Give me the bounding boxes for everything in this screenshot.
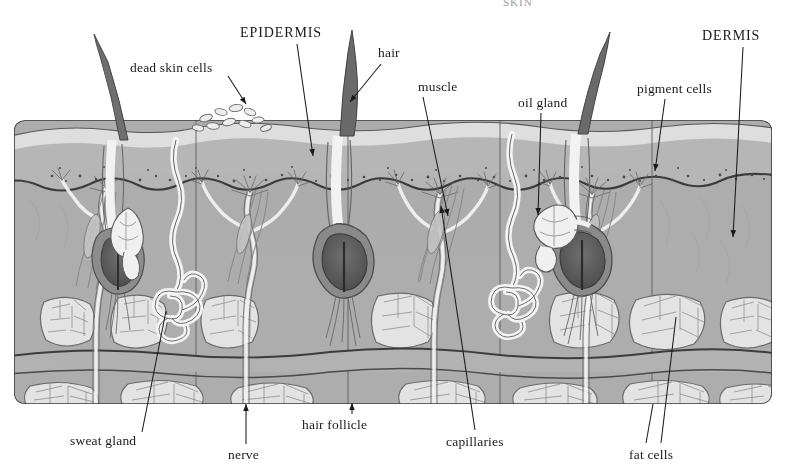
- label-capillaries: capillaries: [446, 434, 504, 450]
- hair-shaft-2: [340, 30, 358, 136]
- skin-cross-section-illustration: [0, 0, 789, 475]
- clipped-top-caption: SKIN: [503, 0, 533, 8]
- label-epidermis: EPIDERMIS: [240, 25, 322, 41]
- label-oil-gland: oil gland: [518, 95, 567, 111]
- label-dermis: DERMIS: [702, 28, 760, 44]
- label-hair-follicle: hair follicle: [302, 417, 367, 433]
- label-dead-skin-cells: dead skin cells: [130, 60, 212, 76]
- leader-fat-cells: [646, 404, 653, 443]
- label-muscle: muscle: [418, 79, 457, 95]
- hair-shaft-3: [578, 32, 610, 134]
- skin-diagram-figure: dead skin cellsEPIDERMIShairmuscleoil gl…: [0, 0, 789, 475]
- fat-lobule-row-upper: [40, 290, 779, 350]
- label-nerve: nerve: [228, 447, 259, 463]
- label-sweat-gland: sweat gland: [70, 433, 136, 449]
- label-hair: hair: [378, 45, 400, 61]
- label-pigment-cells: pigment cells: [637, 81, 712, 97]
- label-fat-cells: fat cells: [629, 447, 673, 463]
